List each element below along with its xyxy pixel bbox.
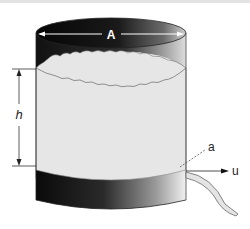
tank-diagram: A h a u: [0, 0, 250, 229]
height-label: h: [15, 107, 22, 122]
orifice-area-label: a: [208, 140, 215, 154]
velocity-label: u: [232, 164, 239, 178]
area-label: A: [107, 28, 116, 42]
fluid-body: [36, 51, 186, 187]
outflow-jet: [186, 172, 238, 216]
velocity-arrow: [186, 169, 229, 174]
